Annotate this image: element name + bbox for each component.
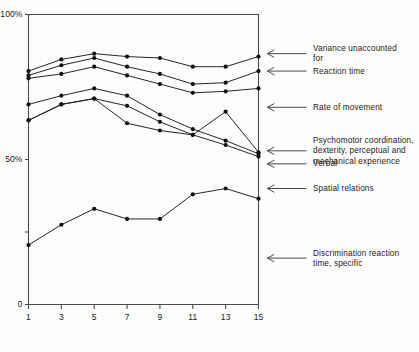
data-point-marker [92,86,96,90]
data-point-marker [125,73,129,77]
series-6 [26,186,260,247]
data-point-marker [256,197,260,201]
annotation-label: Verbal [313,159,417,169]
data-point-marker [26,243,30,247]
data-point-marker [92,207,96,211]
x-axis-label: 7 [117,312,137,322]
x-axis-label: 9 [150,312,170,322]
annotation-arrow-4 [268,160,307,167]
data-point-marker [191,133,195,137]
data-point-marker [224,89,228,93]
data-point-marker [224,143,228,147]
data-point-marker [224,139,228,143]
data-point-marker [256,86,260,90]
data-point-marker [158,128,162,132]
annotation-label: Reaction time [313,67,417,77]
y-axis-label: 100% [0,9,22,19]
series-line [29,54,259,71]
annotation-arrow-3 [268,147,307,154]
annotation-arrow-0 [268,50,307,57]
series-2 [26,65,260,95]
data-point-marker [59,57,63,61]
data-point-marker [191,127,195,131]
data-point-marker [224,110,228,114]
data-point-marker [92,52,96,56]
data-point-marker [158,120,162,124]
data-point-marker [256,54,260,58]
y-axis-label: 50% [5,154,22,164]
data-point-marker [158,112,162,116]
data-point-marker [26,76,30,80]
annotation-label: Rate of movement [313,103,417,113]
data-point-marker [224,65,228,69]
y-axis-label: 0 [18,299,23,309]
data-point-marker [256,150,260,154]
data-point-marker [26,118,30,122]
chart-frame [29,15,259,305]
data-point-marker [191,82,195,86]
x-axis-label: 3 [51,312,71,322]
data-point-marker [59,94,63,98]
x-axis-label: 13 [216,312,236,322]
data-point-marker [92,65,96,69]
data-point-marker [59,223,63,227]
x-axis-label: 15 [249,312,269,322]
annotation-label: Spatial relations [313,184,417,194]
data-point-marker [26,102,30,106]
data-point-marker [256,69,260,73]
data-point-marker [26,69,30,73]
data-point-marker [256,155,260,159]
annotation-label: Variance unaccounted for [313,44,417,64]
data-point-marker [125,65,129,69]
annotation-label: Discrimination reaction time, specific [313,249,417,269]
data-point-marker [125,94,129,98]
data-point-marker [59,63,63,67]
data-point-marker [191,91,195,95]
data-point-marker [59,102,63,106]
data-point-marker [125,217,129,221]
data-point-marker [224,81,228,85]
data-point-marker [224,186,228,190]
data-point-marker [158,82,162,86]
annotation-arrow-2 [268,104,307,111]
data-point-marker [92,56,96,60]
data-point-marker [125,121,129,125]
x-axis-label: 11 [183,312,203,322]
annotation-arrow-5 [268,185,307,192]
annotation-arrow-1 [268,67,307,74]
x-axis-label: 1 [19,312,39,322]
data-point-marker [125,54,129,58]
series-line [29,99,259,157]
data-point-marker [191,192,195,196]
x-axis-label: 5 [84,312,104,322]
annotation-arrow-6 [268,255,307,262]
data-point-marker [59,72,63,76]
data-point-marker [158,72,162,76]
data-point-marker [191,65,195,69]
chart-container: 100%50%013579111315 Variance unaccounted… [0,0,419,352]
series-line [29,189,259,246]
data-point-marker [158,217,162,221]
data-point-marker [158,56,162,60]
data-point-marker [92,97,96,101]
data-point-marker [125,104,129,108]
